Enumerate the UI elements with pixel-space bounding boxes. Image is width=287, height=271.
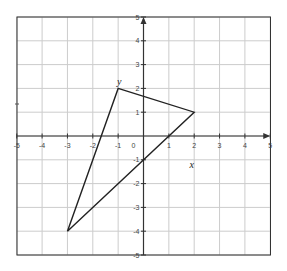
x-tick-label: 3: [218, 142, 222, 149]
y-tick-label: 3: [136, 61, 140, 68]
x-tick-label: 4: [243, 142, 247, 149]
y-tick-label: -2: [133, 180, 139, 187]
y-tick-label: 1: [136, 109, 140, 116]
y-tick-label: -3: [133, 204, 139, 211]
y-tick-label: -1: [133, 156, 139, 163]
x-tick-label: 0: [132, 142, 136, 149]
y-tick-label: 5: [136, 14, 140, 21]
x-tick-label: -4: [39, 142, 45, 149]
x-tick-label: 2: [192, 142, 196, 149]
y-tick-label: -5: [133, 252, 139, 259]
axes: [17, 17, 271, 255]
y-tick-label: 4: [136, 37, 140, 44]
y-axis-label: y: [116, 76, 122, 87]
y-tick-label: -4: [133, 228, 139, 235]
y-axis-arrow-icon: [141, 17, 147, 24]
x-tick-label: 1: [167, 142, 171, 149]
x-tick-label: -5: [14, 142, 20, 149]
x-axis-arrow-icon: [263, 133, 270, 139]
x-axis-label: x: [188, 159, 194, 170]
x-tick-label: 5: [268, 142, 272, 149]
coordinate-plane: -5-4-3-2-1012345-5-4-3-2-112345 y x: [0, 0, 287, 271]
x-tick-label: -2: [90, 142, 96, 149]
x-tick-label: -3: [64, 142, 70, 149]
y-tick-label: 2: [136, 85, 140, 92]
x-tick-label: -1: [115, 142, 121, 149]
